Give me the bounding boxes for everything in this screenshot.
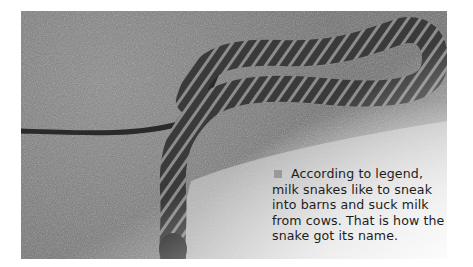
photo-caption: According to legend, milk snakes like to… — [272, 166, 447, 244]
caption-text: According to legend, milk snakes like to… — [272, 166, 444, 243]
square-bullet-icon — [274, 170, 282, 178]
